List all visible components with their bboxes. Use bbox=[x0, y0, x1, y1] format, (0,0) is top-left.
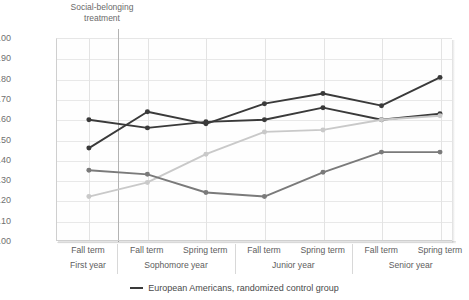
data-point-marker bbox=[320, 105, 325, 110]
data-point-marker bbox=[438, 75, 443, 80]
data-point-marker bbox=[320, 91, 325, 96]
y-axis-tick-label: 3.80 bbox=[0, 74, 11, 84]
y-axis-tick-label: 3.20 bbox=[0, 195, 11, 205]
y-axis-tick-label: 3.00 bbox=[0, 236, 11, 246]
data-point-marker bbox=[379, 150, 384, 155]
data-point-marker bbox=[145, 180, 150, 185]
data-point-marker bbox=[438, 113, 443, 118]
data-point-marker bbox=[320, 170, 325, 175]
x-axis-term-label: Spring term bbox=[183, 245, 227, 255]
x-axis-year-label: Senior year bbox=[389, 260, 433, 270]
data-point-marker bbox=[86, 168, 91, 173]
y-axis-tick-label: 3.50 bbox=[0, 135, 11, 145]
data-point-marker bbox=[379, 117, 384, 122]
data-point-marker bbox=[320, 127, 325, 132]
year-group-separator bbox=[352, 244, 353, 274]
series-line bbox=[89, 77, 440, 148]
data-point-marker bbox=[379, 103, 384, 108]
y-axis-tick-label: 3.30 bbox=[0, 175, 11, 185]
legend-label: European Americans, randomized control g… bbox=[148, 283, 339, 293]
series-layer bbox=[57, 39, 452, 241]
y-axis-tick-label: 4.00 bbox=[0, 33, 11, 43]
plot-area bbox=[56, 38, 452, 241]
x-axis-labels: Fall termFall termSpring termFall termSp… bbox=[56, 244, 452, 278]
year-group-separator bbox=[235, 244, 236, 274]
x-axis-term-label: Spring term bbox=[300, 245, 344, 255]
chart-container: Social-belonging treatment 4.003.903.803… bbox=[0, 0, 469, 300]
year-group-separator bbox=[117, 244, 118, 274]
chart-legend: European Americans, randomized control g… bbox=[0, 283, 469, 293]
x-axis-term-label: Fall term bbox=[247, 245, 280, 255]
y-axis-tick-label: 3.10 bbox=[0, 216, 11, 226]
y-axis-tick-label: 3.90 bbox=[0, 53, 11, 63]
legend-line-swatch-icon bbox=[130, 287, 143, 290]
data-point-marker bbox=[262, 129, 267, 134]
y-axis-tick-label: 3.40 bbox=[0, 155, 11, 165]
data-point-marker bbox=[145, 125, 150, 130]
x-axis-year-label: Junior year bbox=[272, 260, 315, 270]
y-axis-tick-label: 3.70 bbox=[0, 94, 11, 104]
data-point-marker bbox=[438, 150, 443, 155]
data-point-marker bbox=[203, 152, 208, 157]
data-point-marker bbox=[262, 117, 267, 122]
y-axis-tick-label: 3.60 bbox=[0, 114, 11, 124]
data-point-marker bbox=[203, 190, 208, 195]
treatment-annotation: Social-belonging treatment bbox=[44, 2, 160, 24]
x-axis-term-label: Fall term bbox=[130, 245, 163, 255]
x-axis-year-label: First year bbox=[70, 260, 106, 270]
x-axis-term-label: Fall term bbox=[365, 245, 398, 255]
data-point-marker bbox=[86, 117, 91, 122]
x-axis-term-label: Fall term bbox=[71, 245, 104, 255]
data-point-marker bbox=[86, 146, 91, 151]
data-point-marker bbox=[203, 119, 208, 124]
x-axis-year-label: Sophomore year bbox=[144, 260, 208, 270]
x-axis-term-label: Spring term bbox=[418, 245, 462, 255]
data-point-marker bbox=[262, 101, 267, 106]
plot-shadow-right bbox=[452, 40, 455, 243]
data-point-marker bbox=[262, 194, 267, 199]
data-point-marker bbox=[86, 194, 91, 199]
series-line bbox=[89, 152, 440, 196]
data-point-marker bbox=[145, 109, 150, 114]
data-point-marker bbox=[145, 172, 150, 177]
